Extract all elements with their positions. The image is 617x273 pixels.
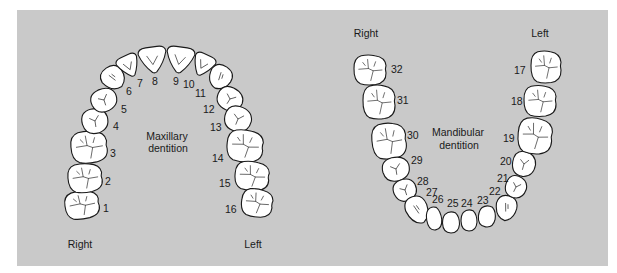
tooth-number-32: 32: [391, 63, 403, 75]
mandibular-caption-line2: dentition: [439, 139, 479, 151]
tooth-number-20: 20: [500, 155, 512, 167]
tooth-number-31: 31: [397, 94, 409, 106]
tooth-number-29: 29: [411, 154, 423, 166]
tooth-26: [425, 206, 443, 231]
tooth-number-19: 19: [503, 132, 515, 144]
tooth-number-15: 15: [219, 177, 231, 189]
tooth-number-23: 23: [477, 194, 489, 206]
tooth-1: [63, 189, 101, 221]
tooth-25-crown: [443, 212, 460, 233]
tooth-number-5: 5: [121, 103, 127, 115]
tooth-number-13: 13: [210, 121, 222, 133]
tooth-25: [443, 212, 460, 233]
tooth-number-3: 3: [110, 147, 116, 159]
tooth-18: [524, 86, 556, 117]
tooth-number-8: 8: [152, 75, 158, 87]
tooth-1-crown: [63, 189, 101, 221]
tooth-number-25: 25: [447, 197, 459, 209]
tooth-number-2: 2: [105, 175, 111, 187]
tooth-number-10: 10: [183, 78, 195, 90]
tooth-3: [70, 129, 109, 164]
mandibular-left-label: Left: [531, 27, 549, 39]
tooth-16-crown: [240, 187, 275, 219]
tooth-9: [164, 45, 195, 75]
tooth-15-crown: [234, 160, 270, 192]
tooth-16: [240, 187, 275, 219]
tooth-number-14: 14: [212, 152, 224, 164]
tooth-number-21: 21: [497, 172, 509, 184]
tooth-number-18: 18: [511, 95, 523, 107]
tooth-number-24: 24: [461, 197, 473, 209]
tooth-19-crown: [516, 117, 553, 156]
tooth-number-9: 9: [173, 75, 179, 87]
tooth-9-crown: [164, 45, 195, 75]
tooth-23: [477, 205, 497, 228]
tooth-14-crown: [226, 128, 265, 163]
tooth-number-30: 30: [407, 129, 419, 141]
tooth-number-16: 16: [225, 203, 237, 215]
tooth-24: [461, 210, 477, 231]
mandibular-right-label: Right: [354, 27, 379, 39]
tooth-number-17: 17: [514, 64, 526, 76]
tooth-23-crown: [477, 205, 497, 228]
maxillary-caption-line1: Maxillary: [146, 130, 188, 142]
tooth-30: [370, 122, 407, 161]
maxillary-caption-line2: dentition: [148, 142, 188, 154]
tooth-2: [67, 162, 103, 194]
tooth-14: [226, 128, 265, 163]
dentition-diagram: 12345678910111213141516 3231302928272625…: [0, 0, 617, 273]
tooth-8-crown: [137, 45, 168, 75]
tooth-15: [234, 160, 270, 192]
tooth-number-4: 4: [113, 120, 119, 132]
tooth-31: [363, 85, 395, 119]
tooth-8: [137, 45, 168, 75]
tooth-2-crown: [67, 162, 103, 194]
tooth-24-crown: [461, 210, 477, 231]
tooth-number-11: 11: [195, 87, 206, 99]
tooth-number-22: 22: [489, 185, 501, 197]
tooth-19: [516, 117, 553, 156]
tooth-3-crown: [70, 129, 109, 164]
tooth-32: [354, 55, 386, 85]
tooth-number-12: 12: [203, 103, 215, 115]
tooth-number-26: 26: [432, 193, 444, 205]
tooth-number-6: 6: [126, 85, 132, 97]
maxillary-left-label: Left: [244, 238, 262, 250]
tooth-30-crown: [370, 122, 407, 161]
maxillary-right-label: Right: [68, 238, 93, 250]
tooth-number-1: 1: [103, 202, 109, 214]
tooth-26-crown: [425, 206, 443, 231]
mandibular-caption-line1: Mandibular: [432, 126, 484, 138]
tooth-17: [531, 51, 561, 83]
tooth-number-7: 7: [137, 77, 143, 89]
